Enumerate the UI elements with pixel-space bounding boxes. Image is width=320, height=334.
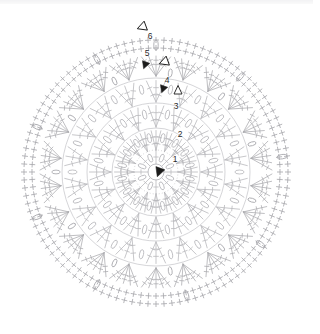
tr-bar: [266, 154, 267, 158]
sc-symbol: [268, 238, 271, 242]
tr-stem: [156, 242, 166, 263]
tr-bar: [212, 261, 216, 263]
chain-loop-oval: [217, 92, 225, 101]
tr-stem: [183, 66, 202, 80]
tr-stem: [243, 207, 266, 212]
chain-loop-oval: [68, 170, 77, 174]
tr-bar: [73, 155, 74, 160]
tr-bar: [143, 282, 147, 285]
tr-stem: [146, 242, 156, 263]
tr-stem: [156, 106, 164, 127]
sc-symbol: [130, 42, 135, 43]
chain-loop-oval: [185, 162, 195, 168]
chain-loop-oval: [133, 196, 141, 206]
sc-symbol: [124, 51, 129, 52]
sc-symbol: [26, 193, 27, 198]
tr-stem: [243, 212, 254, 233]
tr-bar: [229, 95, 233, 96]
tr-stem: [73, 235, 83, 253]
round-label-1: 1: [173, 154, 178, 164]
tr-stem: [131, 111, 139, 131]
chain-loop-oval: [52, 170, 60, 174]
sc-symbol: [25, 154, 26, 159]
tr-stem: [243, 212, 258, 227]
sc-symbol: [52, 99, 55, 103]
chain-loop-oval: [208, 158, 218, 164]
tr-stem: [229, 235, 239, 253]
tr-stem: [90, 164, 111, 172]
chain-loop-oval: [165, 110, 171, 120]
sc-symbol: [285, 146, 286, 151]
chain-loop-oval: [229, 140, 239, 147]
tr-bar: [45, 154, 46, 158]
tr-stem: [104, 67, 106, 91]
tr-stem: [173, 214, 188, 230]
chain-loop-oval: [122, 149, 132, 157]
tr-stem: [146, 81, 156, 102]
tr-bar: [50, 134, 51, 138]
tr-stem: [251, 174, 272, 186]
tr-stem: [123, 61, 129, 80]
tr-stem: [188, 204, 208, 213]
tr-bar: [89, 212, 93, 215]
tr-bar: [44, 160, 45, 164]
chain-loop-oval: [147, 181, 154, 190]
sc-symbol: [222, 58, 226, 61]
round-3: [87, 103, 225, 241]
chain-loop-oval: [110, 95, 118, 105]
sc-symbol: [34, 147, 35, 152]
round-label-3: 3: [174, 101, 179, 111]
tr-stem: [183, 61, 189, 80]
tr-bar: [44, 180, 45, 184]
sc-symbol: [168, 49, 173, 50]
tr-bar: [93, 258, 96, 262]
tr-bar: [236, 191, 239, 195]
tr-stem: [65, 160, 87, 166]
sc-symbol: [284, 138, 285, 143]
tr-stem: [198, 189, 218, 197]
tr-stem: [243, 111, 254, 132]
tr-stem: [180, 238, 187, 258]
sc-symbol: [42, 101, 45, 105]
sc-symbol: [183, 51, 188, 52]
tr-stem: [104, 204, 124, 213]
tr-bar: [267, 160, 268, 164]
tr-bar: [191, 65, 195, 68]
tr-stem: [251, 181, 272, 185]
tr-bar: [262, 181, 263, 185]
tr-stem: [180, 86, 187, 106]
tr-bar: [55, 133, 56, 137]
tr-stem: [188, 120, 197, 140]
tr-bar: [215, 265, 219, 267]
sc-symbol: [169, 303, 174, 304]
round4-start-filled-triangle: [158, 85, 168, 94]
chain-loop-oval: [73, 140, 83, 147]
tr-stem: [57, 212, 68, 233]
tr-bar: [262, 185, 263, 189]
tr-stem: [198, 147, 218, 155]
tr-stem: [251, 158, 272, 170]
tr-bar: [209, 75, 213, 76]
sc-symbol: [185, 43, 190, 44]
chain-loop-oval: [73, 197, 83, 204]
tr-stem: [95, 189, 115, 197]
chain-loop-oval: [119, 216, 127, 226]
tr-bar: [146, 278, 150, 281]
sc-symbol: [83, 273, 87, 276]
tr-bar: [266, 186, 267, 190]
chain-loop-oval: [119, 118, 127, 128]
chain-loop-oval: [111, 258, 118, 267]
tr-stem: [229, 91, 239, 109]
round6-end-open-triangle: [136, 21, 148, 33]
tr-bar: [261, 206, 262, 210]
sc-symbol: [50, 251, 53, 255]
sc-symbol: [229, 62, 233, 65]
tr-stem: [57, 111, 68, 132]
sc-symbol: [276, 199, 277, 204]
sc-symbol: [130, 301, 135, 302]
tr-bar: [49, 185, 50, 189]
tr-bar: [216, 82, 219, 86]
tr-bar: [220, 79, 223, 83]
sc-symbol: [49, 106, 52, 110]
sc-symbol: [77, 73, 81, 76]
